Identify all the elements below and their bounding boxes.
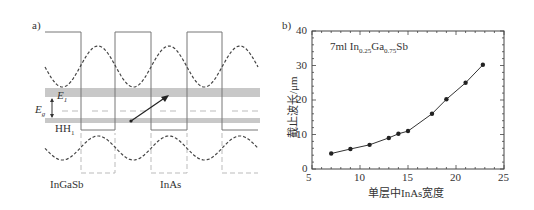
data-curve: [331, 65, 483, 154]
eg-label: Eg: [35, 103, 45, 118]
x-tick-label: 10: [354, 171, 365, 183]
data-points: [329, 63, 485, 156]
y-tick-label: 40: [296, 24, 307, 36]
hh1-miniband: [45, 118, 260, 123]
e1-miniband: [45, 88, 260, 97]
x-tick-label: 15: [402, 171, 413, 183]
data-point: [444, 97, 448, 101]
hh1-label: HH1: [55, 122, 74, 137]
y-tick-label: 10: [296, 128, 307, 140]
panel-b-label: b): [282, 19, 291, 31]
material-label-ingasb: InGaSb: [50, 178, 84, 190]
hole-wavefunction: [45, 136, 258, 160]
panel-a-label: a): [32, 19, 41, 31]
x-axis-label: 单层中InAs宽度: [368, 184, 444, 200]
data-point: [387, 136, 391, 140]
data-point: [329, 151, 333, 155]
data-point: [348, 147, 352, 151]
e1-label: E1: [57, 89, 67, 104]
material-label-inas: InAs: [160, 178, 181, 190]
y-tick-label: 30: [296, 59, 307, 71]
transition-arrow: [131, 97, 166, 121]
data-point: [406, 129, 410, 133]
data-point: [396, 132, 400, 136]
y-tick-label: 20: [296, 93, 307, 105]
data-point: [367, 143, 371, 147]
data-point: [481, 63, 485, 67]
y-tick-label: 0: [302, 162, 308, 174]
chart-annotation: 7ml In0.25Ga0.75Sb: [330, 40, 408, 55]
x-tick-label: 20: [450, 171, 461, 183]
x-tick-label: 25: [498, 171, 509, 183]
data-point: [463, 81, 467, 85]
data-point: [430, 112, 434, 116]
conduction-band-edge: [45, 32, 258, 130]
